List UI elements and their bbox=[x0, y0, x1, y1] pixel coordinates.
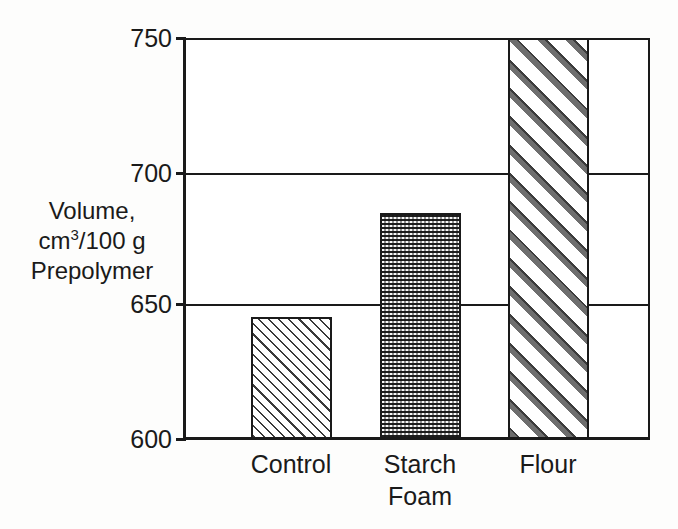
y-axis-title-unit: cm bbox=[38, 227, 70, 254]
y-axis-title-line-1: Volume, bbox=[8, 196, 176, 226]
y-axis-title-line-3: Prepolymer bbox=[8, 256, 176, 286]
x-tick-label-flour: Flour bbox=[468, 450, 628, 478]
y-axis-title-superscript: 3 bbox=[70, 226, 78, 243]
bar-control bbox=[251, 317, 332, 439]
y-axis-title-unit-rest: /100 g bbox=[79, 227, 146, 254]
y-axis-title-line-2: cm3/100 g bbox=[8, 226, 176, 256]
y-tick-label-600: 600 bbox=[110, 427, 172, 452]
x-axis-title: Foam bbox=[340, 482, 500, 510]
y-tick-label-750: 750 bbox=[110, 26, 172, 51]
bar-flour bbox=[508, 38, 589, 439]
bar-chart-figure: 750 700 650 600 Volume, cm3/100 g Prepol… bbox=[0, 0, 678, 529]
y-tick-label-650: 650 bbox=[110, 292, 172, 317]
bar-starch bbox=[380, 213, 461, 439]
y-tick-label-700: 700 bbox=[110, 161, 172, 186]
plot-area bbox=[183, 38, 650, 440]
y-axis-title: Volume, cm3/100 g Prepolymer bbox=[8, 196, 176, 286]
